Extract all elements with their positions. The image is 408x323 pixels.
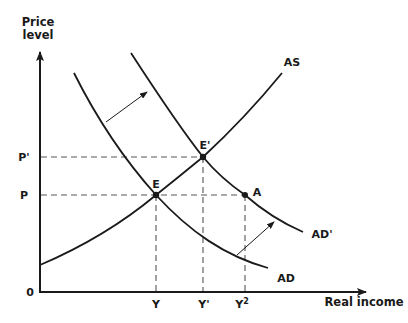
x-axis-title: Real income xyxy=(325,295,404,309)
point-a xyxy=(242,192,248,198)
p-prime-label: P' xyxy=(18,151,29,164)
upper-shift-arrow-icon xyxy=(106,92,147,122)
y2-superscript: 2 xyxy=(243,297,249,306)
point-a-label: A xyxy=(253,186,262,199)
as-curve xyxy=(40,73,282,265)
point-e-label: E xyxy=(152,178,160,191)
ad-label: AD xyxy=(277,272,295,285)
lower-shift-arrow-icon xyxy=(237,222,274,255)
y-axis-title-line1: Price xyxy=(22,15,55,29)
point-e xyxy=(153,192,159,198)
ad-prime-label: AD' xyxy=(311,228,332,241)
y-axis-title-line2: level xyxy=(23,28,54,42)
ad-curve xyxy=(74,73,268,268)
point-e-prime-label: E' xyxy=(200,139,211,152)
y-prime-label: Y' xyxy=(197,298,209,311)
point-e-prime xyxy=(200,154,206,160)
ad-as-diagram: Price level Real income 0 AS AD AD' E E'… xyxy=(0,0,408,323)
as-label: AS xyxy=(284,56,301,69)
p-label: P xyxy=(20,189,28,202)
origin-label: 0 xyxy=(26,286,34,299)
y2-label: Y2 xyxy=(234,297,249,311)
y-label: Y xyxy=(151,298,161,311)
